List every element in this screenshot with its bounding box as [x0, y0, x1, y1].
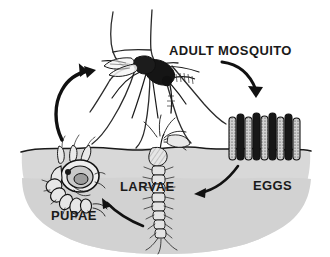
- mosquito-life-cycle-diagram: ADULT MOSQUITO EGGS LARVAE PUPAE: [0, 0, 330, 257]
- label-larvae: LARVAE: [120, 179, 175, 194]
- adult-mosquito: [102, 56, 199, 118]
- arrow-pupae-to-adult: [56, 63, 96, 140]
- label-pupae: PUPAE: [51, 208, 97, 223]
- eggs-cluster: [229, 113, 300, 160]
- life-cycle-illustration: ADULT MOSQUITO EGGS LARVAE PUPAE: [0, 0, 330, 257]
- label-eggs: EGGS: [253, 178, 292, 193]
- arrow-adult-to-eggs: [222, 62, 263, 98]
- label-adult-mosquito: ADULT MOSQUITO: [169, 43, 292, 58]
